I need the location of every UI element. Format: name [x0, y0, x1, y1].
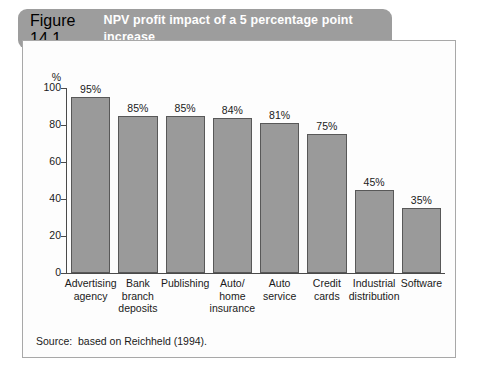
x-axis-category-label-line: distribution	[346, 290, 403, 303]
x-axis-labels: AdvertisingagencyBankbranchdepositsPubli…	[67, 277, 445, 333]
bar-group[interactable]: 45%	[355, 88, 394, 273]
y-axis-tick-label: 100	[27, 81, 61, 93]
source-note: Source: based on Reichheld (1994).	[36, 335, 207, 347]
bar-group[interactable]: 84%	[213, 88, 252, 273]
bar[interactable]	[213, 118, 252, 273]
bar-value-label: 75%	[297, 120, 356, 132]
y-axis-tick-label: 20	[27, 229, 61, 241]
bar-group[interactable]: 95%	[71, 88, 110, 273]
bar-value-label: 95%	[61, 83, 120, 95]
bar-series: 95%85%85%84%81%75%45%35%	[67, 88, 445, 273]
bar-group[interactable]: 35%	[402, 88, 441, 273]
bar-group[interactable]: 81%	[260, 88, 299, 273]
x-axis-category-label: Software	[393, 277, 450, 290]
y-axis-tick-label: 60	[27, 155, 61, 167]
x-axis-category-label-line: branch	[109, 290, 166, 303]
bar-group[interactable]: 85%	[166, 88, 205, 273]
bar[interactable]	[71, 97, 110, 273]
x-axis-category-label-line: Software	[393, 277, 450, 290]
y-axis-tick-mark	[61, 273, 67, 274]
bar[interactable]	[118, 116, 157, 273]
bar[interactable]	[402, 208, 441, 273]
figure-frame: % 020406080100 95%85%85%84%81%75%45%35% …	[22, 40, 456, 358]
y-axis-tick-label: 80	[27, 118, 61, 130]
bar[interactable]	[260, 123, 299, 273]
bar-value-label: 35%	[392, 194, 451, 206]
y-axis-tick-label: 40	[27, 192, 61, 204]
bar-value-label: 45%	[345, 176, 404, 188]
bar[interactable]	[307, 134, 346, 273]
chart-plot-area: % 020406080100 95%85%85%84%81%75%45%35% …	[23, 41, 457, 359]
bar-group[interactable]: 85%	[118, 88, 157, 273]
y-axis-tick-label: 0	[27, 266, 61, 278]
bar[interactable]	[166, 116, 205, 273]
bar-group[interactable]: 75%	[307, 88, 346, 273]
x-axis-line	[66, 273, 445, 274]
x-axis-category-label-line: insurance	[204, 302, 261, 315]
bar[interactable]	[355, 190, 394, 273]
x-axis-category-label-line: deposits	[109, 302, 166, 315]
